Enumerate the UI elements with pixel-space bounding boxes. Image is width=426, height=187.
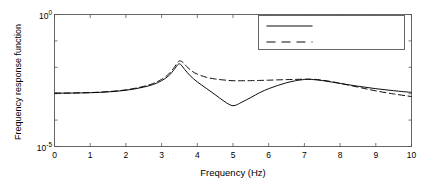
legend-box — [259, 16, 405, 50]
x-tick-label-0: 0 — [43, 150, 67, 160]
x-tick-label-1: 1 — [78, 150, 102, 160]
frf-chart-figure: Frequency response function Frequency (H… — [0, 0, 426, 187]
series-line-direct-frf — [55, 64, 412, 106]
series-line-transfer-frf — [55, 61, 412, 97]
x-tick-label-9: 9 — [364, 150, 388, 160]
x-tick-label-8: 8 — [328, 150, 352, 160]
x-tick-label-2: 2 — [114, 150, 138, 160]
x-tick-label-5: 5 — [221, 150, 245, 160]
x-tick-label-3: 3 — [150, 150, 174, 160]
x-tick-label-10: 10 — [400, 150, 424, 160]
x-tick-label-6: 6 — [257, 150, 281, 160]
series-group — [55, 61, 412, 106]
x-tick-label-7: 7 — [292, 150, 316, 160]
x-tick-label-4: 4 — [185, 150, 209, 160]
